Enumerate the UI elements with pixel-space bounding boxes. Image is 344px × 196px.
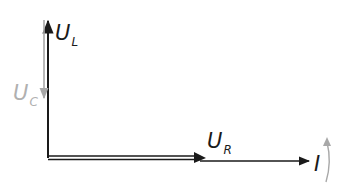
phasor-diagram: UL UC UR I [0, 0, 344, 196]
label-uc: UC [13, 81, 38, 109]
rotation-arrow-icon [323, 137, 331, 182]
label-ul: UL [55, 21, 78, 49]
label-ur: UR [207, 129, 232, 157]
vector-ur [48, 152, 206, 163]
label-i: I [314, 152, 320, 176]
